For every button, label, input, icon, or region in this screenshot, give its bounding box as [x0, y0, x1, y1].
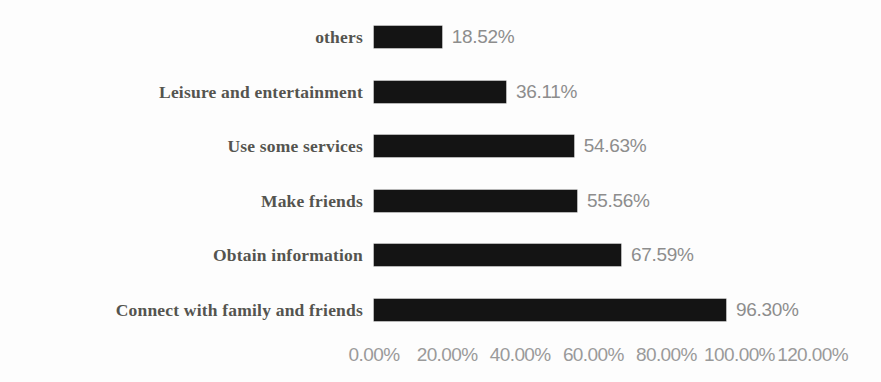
- category-label: others: [315, 27, 363, 48]
- x-axis-tick-label: 120.00%: [777, 344, 848, 366]
- bar-row: others18.52%: [0, 10, 881, 64]
- category-label: Connect with family and friends: [116, 299, 363, 320]
- bar[interactable]: [374, 135, 574, 157]
- x-axis-ticks: 0.00%20.00%40.00%60.00%80.00%100.00%120.…: [374, 338, 834, 382]
- x-axis-tick-label: 100.00%: [704, 344, 775, 366]
- bar-row: Connect with family and friends96.30%: [0, 283, 881, 337]
- bar-value-label: 18.52%: [452, 26, 515, 48]
- x-axis-tick-label: 0.00%: [349, 344, 400, 366]
- bar-chart: others18.52%Leisure and entertainment36.…: [0, 0, 881, 382]
- bar-row: Leisure and entertainment36.11%: [0, 65, 881, 119]
- bar-value-label: 55.56%: [587, 190, 650, 212]
- bar-value-label: 67.59%: [631, 244, 694, 266]
- category-label: Obtain information: [213, 245, 363, 266]
- category-label: Make friends: [261, 190, 363, 211]
- bar-value-label: 54.63%: [584, 135, 647, 157]
- bar-row: Use some services54.63%: [0, 119, 881, 173]
- x-axis-tick-label: 60.00%: [563, 344, 624, 366]
- bar-value-label: 96.30%: [736, 299, 799, 321]
- bar[interactable]: [374, 244, 621, 266]
- x-axis-tick-label: 80.00%: [636, 344, 697, 366]
- plot-area: others18.52%Leisure and entertainment36.…: [0, 0, 881, 340]
- category-label: Leisure and entertainment: [159, 81, 363, 102]
- bar-value-label: 36.11%: [516, 81, 577, 103]
- x-axis-tick-label: 40.00%: [490, 344, 551, 366]
- x-axis-tick-label: 20.00%: [417, 344, 478, 366]
- bar[interactable]: [374, 26, 442, 48]
- bar[interactable]: [374, 299, 726, 321]
- category-label: Use some services: [227, 136, 363, 157]
- x-axis: 0.00%20.00%40.00%60.00%80.00%100.00%120.…: [0, 338, 881, 382]
- bar-row: Obtain information67.59%: [0, 228, 881, 282]
- bar[interactable]: [374, 81, 506, 103]
- bar[interactable]: [374, 190, 577, 212]
- bar-row: Make friends55.56%: [0, 174, 881, 228]
